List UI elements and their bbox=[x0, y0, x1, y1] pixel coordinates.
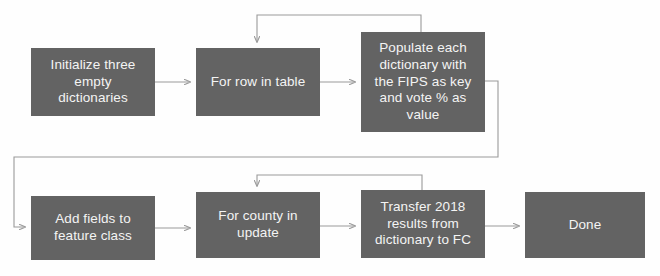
node-label: Initialize three empty dictionaries bbox=[38, 57, 148, 108]
node-initialize-dictionaries[interactable]: Initialize three empty dictionaries bbox=[31, 48, 155, 116]
node-label: Add fields to feature class bbox=[38, 211, 148, 245]
node-label: For row in table bbox=[203, 74, 313, 91]
node-done[interactable]: Done bbox=[525, 192, 645, 258]
node-label: Done bbox=[532, 217, 638, 234]
node-label: For county in update bbox=[203, 208, 313, 242]
flowchart-canvas: Initialize three empty dictionaries For … bbox=[0, 0, 660, 276]
node-label: Transfer 2018 results from dictionary to… bbox=[368, 199, 478, 250]
edge-transfer-loop-back bbox=[257, 175, 422, 190]
node-for-county-in-update[interactable]: For county in update bbox=[196, 192, 320, 258]
node-for-row-in-table[interactable]: For row in table bbox=[196, 48, 320, 116]
node-populate-dictionary[interactable]: Populate each dictionary with the FIPS a… bbox=[361, 32, 485, 132]
node-add-fields[interactable]: Add fields to feature class bbox=[31, 196, 155, 260]
node-label: Populate each dictionary with the FIPS a… bbox=[368, 40, 478, 124]
node-transfer-results[interactable]: Transfer 2018 results from dictionary to… bbox=[361, 190, 485, 258]
